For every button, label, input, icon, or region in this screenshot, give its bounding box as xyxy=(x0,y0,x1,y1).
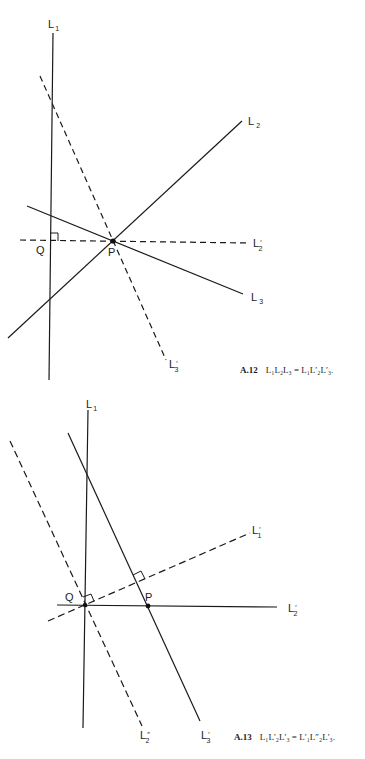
point-q xyxy=(83,603,87,607)
caption-a13: A.13L₁L′₂L′₃ = L′₁L″₂L′₃. xyxy=(234,732,335,742)
diagram-canvas: L1 L2 L3 L′2 L′3 P Q P A.12L₁L₂L₃ = L₁L′… xyxy=(0,0,365,759)
label-l1-prime: L′1 xyxy=(252,524,261,539)
line-l1 xyxy=(49,33,53,380)
label-l2-prime: L′2 xyxy=(288,602,297,617)
label-l2: L2 xyxy=(248,115,260,129)
figure-a12-labels: L1 L2 L3 L′2 L′3 P Q P xyxy=(36,18,263,373)
label-l3: L3 xyxy=(251,291,263,305)
figure-a13-labels: L1 L′1 L′2 L″2 L′3 Q P xyxy=(65,398,297,744)
label-l3-prime: L′3 xyxy=(169,358,178,373)
point-p xyxy=(146,604,151,609)
label-l3-prime: L′3 xyxy=(201,729,210,744)
point-p xyxy=(110,238,115,243)
label-l1: L1 xyxy=(48,18,59,32)
figure-a13 xyxy=(10,410,277,728)
label-l2-double-prime: L″2 xyxy=(140,729,150,744)
line-l3-prime xyxy=(68,433,200,721)
figure-a12 xyxy=(8,33,250,380)
line-l2-double-prime xyxy=(10,441,142,726)
label-l1: L1 xyxy=(86,398,97,412)
label-l2-prime: L′2 xyxy=(253,237,262,252)
label-q: Q xyxy=(36,244,45,256)
line-l3 xyxy=(27,206,243,294)
caption-a12-text: A.12L₁L₂L₃ = L₁L′₂L′₃. xyxy=(240,365,333,375)
caption-a12: A.12L₁L₂L₃ = L₁L′₂L′₃. xyxy=(240,365,333,375)
caption-a13-text: A.13L₁L′₂L′₃ = L′₁L″₂L′₃. xyxy=(234,732,335,742)
label-p: P xyxy=(108,246,115,258)
line-l2 xyxy=(8,121,242,338)
line-l1 xyxy=(83,410,88,728)
label-q: Q xyxy=(65,591,74,603)
label-p: P xyxy=(145,591,152,603)
line-l2-prime xyxy=(20,240,250,243)
line-l2-prime xyxy=(57,605,277,607)
line-l3-prime xyxy=(40,76,166,360)
